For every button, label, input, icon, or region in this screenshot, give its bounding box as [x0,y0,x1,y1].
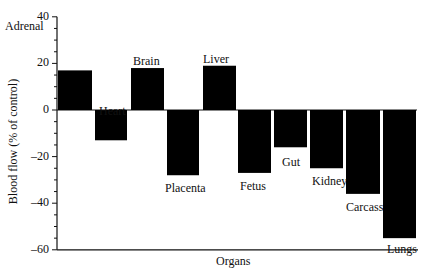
bar-label: Brain [133,54,160,69]
bar-brain [131,68,164,110]
y-axis-label: Blood flow (% of control) [6,77,21,207]
bar-liver [203,66,236,110]
bar-label: Kidney [312,174,347,189]
bar-gut [274,110,307,147]
bar-label: Fetus [240,179,266,194]
bar-fetus [238,110,271,173]
bar-label: Heart [99,104,126,119]
y-tick-label: –20 [19,149,49,164]
y-tick-label: –60 [19,242,49,257]
y-tick-label: 0 [19,102,49,117]
chart-canvas [0,0,428,273]
bar-adrenal [58,70,92,110]
bar-label: Liver [203,52,229,67]
bar-label: Adrenal [5,19,44,34]
bar-kidney [310,110,343,168]
bar-lungs [383,110,416,238]
y-tick-label: 20 [19,55,49,70]
bar-label: Lungs [387,242,417,257]
bar-label: Carcass [346,200,383,215]
x-axis-label: Organs [216,254,250,269]
y-tick-label: –40 [19,195,49,210]
bar-placenta [167,110,199,175]
bar-label: Gut [282,155,300,170]
bar-carcass [346,110,380,194]
bar-label: Placenta [165,181,206,196]
